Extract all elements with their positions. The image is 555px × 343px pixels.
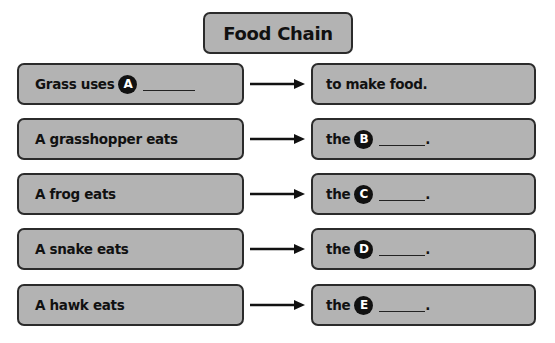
- right-box-prefix: the: [326, 241, 350, 257]
- answer-blank-c[interactable]: [379, 188, 425, 201]
- left-box-grasshopper: A grasshopper eats: [17, 118, 244, 160]
- left-box-grass: Grass uses A: [17, 63, 244, 105]
- left-box-text: A frog eats: [35, 186, 116, 202]
- right-box-2: the B .: [311, 118, 536, 160]
- right-box-1: to make food.: [311, 63, 536, 105]
- badge-c: C: [354, 185, 373, 204]
- arrow-icon: [250, 189, 305, 199]
- answer-blank-d[interactable]: [379, 243, 425, 256]
- answer-blank-a[interactable]: [143, 78, 195, 91]
- badge-e: E: [354, 296, 373, 315]
- badge-b: B: [354, 130, 373, 149]
- left-box-text: A grasshopper eats: [35, 131, 178, 147]
- arrow-icon: [250, 79, 305, 89]
- period: .: [425, 297, 430, 313]
- right-box-prefix: the: [326, 186, 350, 202]
- diagram-title: Food Chain: [203, 12, 353, 54]
- right-box-3: the C .: [311, 173, 536, 215]
- right-box-prefix: the: [326, 297, 350, 313]
- answer-blank-b[interactable]: [379, 133, 425, 146]
- left-box-text: A hawk eats: [35, 297, 124, 313]
- right-box-text: to make food.: [326, 76, 427, 92]
- arrow-icon: [250, 244, 305, 254]
- left-box-hawk: A hawk eats: [17, 284, 244, 326]
- right-box-5: the E .: [311, 284, 536, 326]
- left-box-snake: A snake eats: [17, 228, 244, 270]
- left-box-text: Grass uses: [35, 76, 114, 92]
- left-box-frog: A frog eats: [17, 173, 244, 215]
- period: .: [425, 241, 430, 257]
- period: .: [425, 131, 430, 147]
- right-box-prefix: the: [326, 131, 350, 147]
- answer-blank-e[interactable]: [379, 299, 425, 312]
- right-box-4: the D .: [311, 228, 536, 270]
- badge-d: D: [354, 240, 373, 259]
- arrow-icon: [250, 300, 305, 310]
- period: .: [425, 186, 430, 202]
- arrow-icon: [250, 134, 305, 144]
- badge-a: A: [118, 75, 137, 94]
- left-box-text: A snake eats: [35, 241, 129, 257]
